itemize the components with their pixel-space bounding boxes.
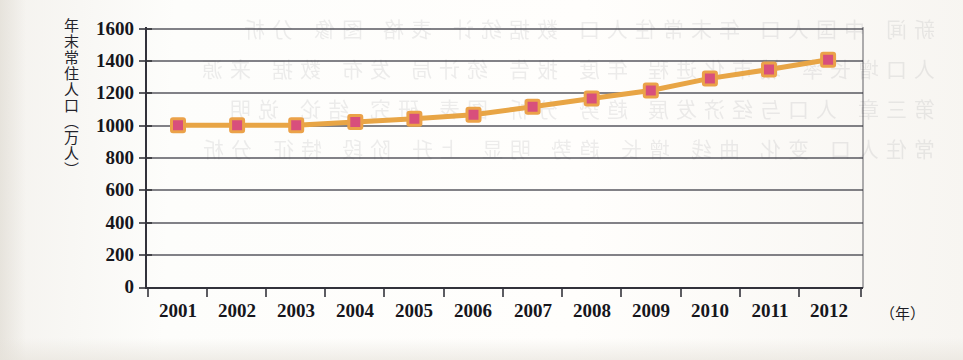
data-point-marker <box>585 92 598 105</box>
x-tick-label: 2008 <box>560 300 624 322</box>
x-tick-label: 2005 <box>382 300 446 322</box>
data-point-marker <box>172 119 185 132</box>
data-point-marker <box>408 112 421 125</box>
x-tick-label: 2012 <box>797 300 861 322</box>
data-point-marker <box>763 63 776 76</box>
gridlines <box>146 29 863 255</box>
data-point-marker <box>703 72 716 85</box>
x-tick-marks <box>148 288 861 297</box>
x-tick-label: 2011 <box>738 300 802 322</box>
data-point-marker <box>467 108 480 121</box>
data-point-marker <box>526 100 539 113</box>
x-tick-label: 2002 <box>205 300 269 322</box>
x-tick-label: 2004 <box>323 300 387 322</box>
x-tick-label: 2009 <box>619 300 683 322</box>
data-point-marker <box>644 84 657 97</box>
data-point-marker <box>349 116 362 129</box>
x-tick-label: 2007 <box>501 300 565 322</box>
line-chart-figure: 年末常住人口（万人） 1600 1400 1200 1000 800 600 4… <box>0 0 963 360</box>
data-point-marker <box>822 53 835 66</box>
data-point-marker <box>290 119 303 132</box>
x-axis-unit-label: （年） <box>880 302 925 323</box>
x-tick-label: 2003 <box>264 300 328 322</box>
x-tick-label: 2010 <box>678 300 742 322</box>
data-point-marker <box>231 119 244 132</box>
x-tick-label: 2001 <box>146 300 210 322</box>
x-tick-label: 2006 <box>441 300 505 322</box>
